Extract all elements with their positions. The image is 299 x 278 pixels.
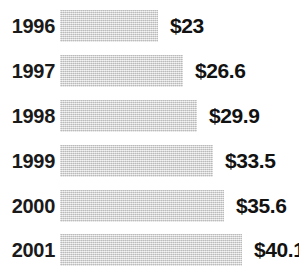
chart-row: 1997 $26.6 — [0, 55, 299, 100]
category-label: 1996 — [0, 10, 55, 42]
category-label: 2001 — [0, 234, 55, 266]
bar-track — [60, 10, 158, 42]
chart-row: 2001 $40.1 — [0, 234, 299, 278]
bar — [60, 10, 158, 42]
chart-row: 1996 $23 — [0, 10, 299, 55]
value-label: $26.6 — [195, 55, 246, 87]
value-label: $29.9 — [209, 100, 260, 132]
chart-row: 1999 $33.5 — [0, 145, 299, 190]
bar-track — [60, 100, 197, 132]
value-label: $23 — [170, 10, 204, 42]
bar — [60, 55, 183, 87]
chart-row: 2000 $35.6 — [0, 190, 299, 235]
bar — [60, 190, 224, 222]
value-label: $35.6 — [236, 190, 287, 222]
bar-track — [60, 145, 213, 177]
value-label: $33.5 — [225, 145, 276, 177]
category-label: 1997 — [0, 55, 55, 87]
bar-track — [60, 190, 224, 222]
category-label: 2000 — [0, 190, 55, 222]
bar — [60, 145, 213, 177]
value-label: $40.1 — [254, 234, 299, 266]
bar — [60, 234, 242, 266]
bar-track — [60, 234, 242, 266]
bar-chart: 1996 $23 1997 $26.6 1998 $29.9 1999 $33.… — [0, 0, 299, 278]
chart-row: 1998 $29.9 — [0, 100, 299, 145]
bar-track — [60, 55, 183, 87]
category-label: 1999 — [0, 145, 55, 177]
bar — [60, 100, 197, 132]
category-label: 1998 — [0, 100, 55, 132]
